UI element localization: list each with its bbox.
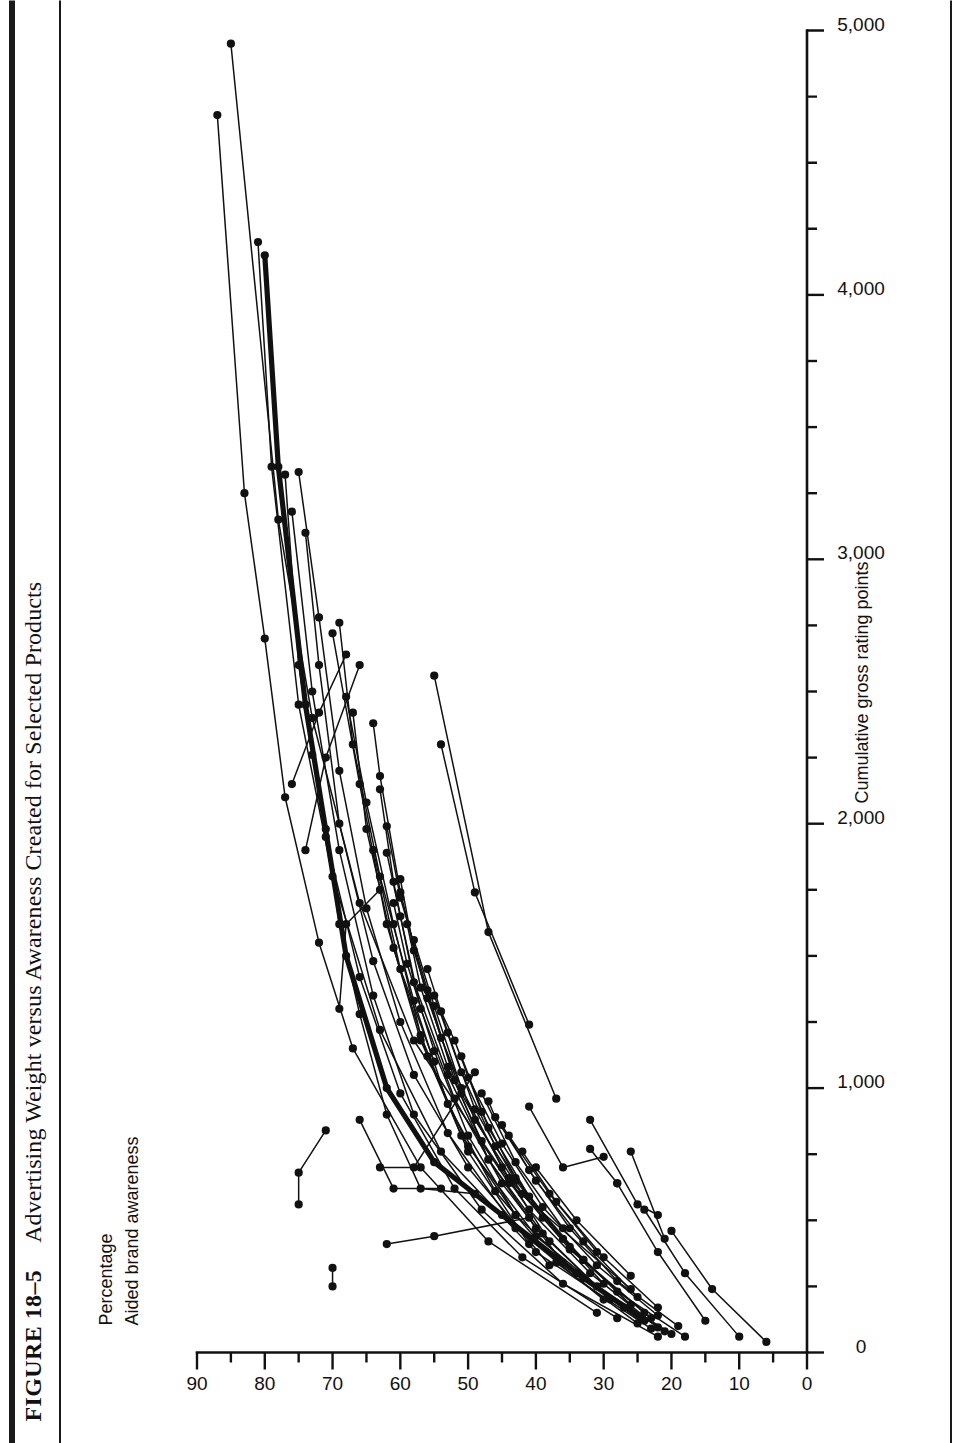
data-point — [593, 1308, 601, 1316]
y-tick-label: 20 — [661, 1372, 682, 1393]
y-tick-label: 50 — [458, 1372, 479, 1393]
x-tick-label: 5,000 — [837, 13, 885, 34]
x-tick-label: 0 — [856, 1335, 867, 1356]
data-point — [654, 1311, 662, 1319]
data-point — [281, 793, 289, 801]
data-point — [356, 660, 364, 668]
data-point — [654, 1210, 662, 1218]
data-point — [227, 39, 235, 47]
data-point — [335, 766, 343, 774]
data-point — [478, 1089, 486, 1097]
series-line — [299, 1130, 326, 1204]
data-point — [457, 1052, 465, 1060]
data-point — [633, 1200, 641, 1208]
data-series — [328, 1263, 336, 1290]
data-point — [600, 1152, 608, 1160]
data-point — [471, 888, 479, 896]
tick-label-layer: 01,0002,0003,0004,0005,00090807060504030… — [186, 13, 884, 1393]
data-point — [471, 1068, 479, 1076]
data-point — [437, 1184, 445, 1192]
y-tick-label: 0 — [802, 1372, 813, 1393]
series-line — [387, 826, 672, 1334]
data-point — [464, 1163, 472, 1171]
data-point — [437, 740, 445, 748]
data-series — [640, 1205, 743, 1340]
data-point — [654, 1332, 662, 1340]
scatter-line-plot: 01,0002,0003,0004,0005,00090807060504030… — [0, 0, 968, 1443]
data-point — [430, 991, 438, 999]
data-point — [335, 819, 343, 827]
x-tick-label: 1,000 — [837, 1071, 885, 1092]
data-point — [511, 1158, 519, 1166]
data-point — [396, 1017, 404, 1025]
data-point — [261, 634, 269, 642]
data-point — [349, 1044, 357, 1052]
data-point — [457, 1068, 465, 1076]
series-line — [529, 1106, 604, 1167]
data-series-layer — [213, 39, 770, 1345]
data-point — [335, 1004, 343, 1012]
data-point — [301, 846, 309, 854]
data-series — [437, 740, 533, 1028]
data-point — [376, 1163, 384, 1171]
data-point — [559, 1163, 567, 1171]
data-point — [369, 991, 377, 999]
data-point — [430, 671, 438, 679]
data-point — [484, 1097, 492, 1105]
data-point — [315, 708, 323, 716]
rotated-figure-canvas: FIGURE 18–5 Advertising Weight versus Aw… — [0, 0, 968, 1443]
data-point — [240, 489, 248, 497]
data-point — [383, 848, 391, 856]
y-tick-label: 60 — [390, 1372, 411, 1393]
data-point — [254, 237, 262, 245]
data-point — [322, 1126, 330, 1134]
data-point — [423, 965, 431, 973]
data-point — [674, 1321, 682, 1329]
data-series — [342, 692, 669, 1335]
data-point — [376, 785, 384, 793]
data-point — [369, 957, 377, 965]
data-point — [383, 1239, 391, 1247]
series-line — [387, 1217, 529, 1243]
data-series — [525, 1102, 608, 1171]
data-point — [586, 1144, 594, 1152]
data-series — [254, 237, 655, 1332]
data-series — [403, 920, 662, 1331]
data-point — [396, 1089, 404, 1097]
y-tick-label: 10 — [729, 1372, 750, 1393]
data-point — [362, 904, 370, 912]
y-tick-label: 40 — [525, 1372, 546, 1393]
data-series — [396, 875, 655, 1322]
data-point — [498, 1163, 506, 1171]
series-line — [590, 1119, 658, 1214]
data-point — [654, 1247, 662, 1255]
series-line — [312, 754, 475, 1193]
data-point — [288, 779, 296, 787]
data-point — [410, 1070, 418, 1078]
data-point — [261, 251, 269, 259]
y-tick-label: 90 — [186, 1372, 207, 1393]
data-series — [213, 111, 601, 1317]
data-point — [525, 1102, 533, 1110]
y-tick-label: 30 — [593, 1372, 614, 1393]
series-line — [231, 43, 631, 1288]
data-point — [383, 822, 391, 830]
data-series — [627, 1147, 669, 1242]
data-point — [281, 470, 289, 478]
data-series — [295, 1126, 330, 1208]
data-point — [295, 700, 303, 708]
data-point — [315, 613, 323, 621]
data-point — [288, 507, 296, 515]
data-point — [586, 1115, 594, 1123]
series-line — [671, 1230, 766, 1341]
data-series — [281, 470, 621, 1322]
data-point — [552, 1094, 560, 1102]
data-point — [525, 1020, 533, 1028]
data-point — [335, 618, 343, 626]
data-point — [328, 629, 336, 637]
data-point — [450, 1036, 458, 1044]
data-point — [213, 111, 221, 119]
series-line — [346, 696, 665, 1331]
data-point — [349, 708, 357, 716]
data-point — [383, 1110, 391, 1118]
